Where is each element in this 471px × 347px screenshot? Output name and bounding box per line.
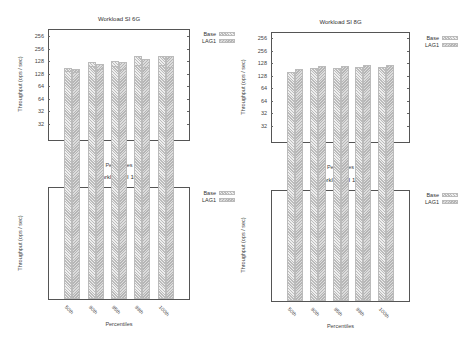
bar-lag1 bbox=[386, 65, 394, 301]
y-tick-label: 128 bbox=[247, 73, 267, 79]
y-tick-mark bbox=[48, 36, 50, 37]
y-tick-mark bbox=[48, 49, 50, 50]
legend-swatch-base bbox=[442, 193, 458, 197]
y-tick-mark bbox=[271, 63, 273, 64]
y-tick-mark-right bbox=[187, 74, 189, 75]
legend-entry: Base bbox=[408, 191, 458, 198]
legend-entry: LAG1 bbox=[408, 41, 458, 48]
y-tick-mark-right bbox=[407, 76, 409, 77]
y-tick-mark-right bbox=[187, 99, 189, 100]
y-tick-mark bbox=[271, 51, 273, 52]
legend-label: Base bbox=[203, 31, 216, 37]
y-tick-mark-right bbox=[407, 88, 409, 89]
bar-base bbox=[310, 68, 318, 301]
bar-base bbox=[111, 66, 119, 299]
x-axis-label: Percentiles bbox=[271, 323, 410, 329]
legend-swatch-base bbox=[219, 191, 235, 195]
bar-lag1 bbox=[363, 65, 371, 301]
chart-panel: Workload SI 8G2561286432Throughput (ops … bbox=[235, 0, 470, 173]
y-axis-label: Throughput (ops / sec) bbox=[17, 203, 23, 283]
bar-lag1 bbox=[96, 69, 104, 299]
bar-base bbox=[378, 67, 386, 301]
y-tick-label: 32 bbox=[24, 108, 44, 114]
chart-panel: Workload SI 12G2561286432Throughput (ops… bbox=[235, 173, 470, 346]
bar-lag1 bbox=[119, 69, 127, 299]
y-tick-mark bbox=[271, 101, 273, 102]
legend-label: Base bbox=[203, 190, 216, 196]
legend-swatch-base bbox=[442, 36, 458, 40]
x-tick-label: 95th bbox=[111, 304, 122, 315]
y-tick-label: 32 bbox=[247, 110, 267, 116]
y-tick-label: 256 bbox=[247, 48, 267, 54]
y-tick-label: 32 bbox=[24, 121, 44, 127]
chart-title: Workload SI 8G bbox=[271, 19, 410, 25]
y-tick-mark-right bbox=[407, 113, 409, 114]
y-tick-mark-right bbox=[407, 126, 409, 127]
chart-title: Workload SI 6G bbox=[48, 16, 190, 22]
y-tick-mark bbox=[271, 126, 273, 127]
x-tick-label: 90th bbox=[87, 304, 98, 315]
legend: BaseLAG1 bbox=[408, 191, 458, 205]
y-tick-mark bbox=[271, 88, 273, 89]
bar-base bbox=[287, 72, 295, 301]
y-tick-label: 256 bbox=[247, 35, 267, 41]
y-tick-label: 256 bbox=[24, 46, 44, 52]
bar-lag1 bbox=[166, 67, 174, 299]
y-tick-mark bbox=[271, 76, 273, 77]
legend-swatch-lag1 bbox=[219, 198, 235, 202]
y-tick-label: 128 bbox=[24, 71, 44, 77]
legend: BaseLAG1 bbox=[185, 30, 235, 44]
legend-entry: LAG1 bbox=[185, 37, 235, 44]
legend-entry: Base bbox=[185, 30, 235, 37]
legend-entry: LAG1 bbox=[408, 198, 458, 205]
y-tick-mark-right bbox=[187, 49, 189, 50]
legend: BaseLAG1 bbox=[185, 189, 235, 203]
bar-base bbox=[64, 71, 72, 299]
legend-swatch-lag1 bbox=[219, 39, 235, 43]
y-tick-mark bbox=[48, 61, 50, 62]
x-axis-label: Percentiles bbox=[48, 321, 190, 327]
x-tick-label: 50th bbox=[287, 306, 298, 317]
bar-base bbox=[333, 68, 341, 301]
y-axis-label: Throughput (ops / sec) bbox=[17, 44, 23, 124]
bar-base bbox=[158, 65, 166, 299]
bar-lag1 bbox=[295, 69, 303, 301]
bar-lag1 bbox=[318, 66, 326, 301]
y-tick-label: 256 bbox=[24, 33, 44, 39]
y-tick-label: 64 bbox=[247, 85, 267, 91]
legend-label: LAG1 bbox=[202, 38, 216, 44]
x-tick-label: 90th bbox=[309, 306, 320, 317]
legend-swatch-lag1 bbox=[442, 200, 458, 204]
y-tick-mark-right bbox=[187, 111, 189, 112]
y-tick-mark-right bbox=[407, 51, 409, 52]
bar-base bbox=[88, 66, 96, 299]
legend-label: Base bbox=[426, 192, 439, 198]
legend-label: LAG1 bbox=[202, 197, 216, 203]
y-tick-label: 64 bbox=[247, 98, 267, 104]
legend-swatch-lag1 bbox=[442, 43, 458, 47]
bar-lag1 bbox=[341, 66, 349, 301]
x-tick-label: 100th bbox=[378, 306, 391, 319]
x-tick-label: 50th bbox=[64, 304, 75, 315]
bar-base bbox=[134, 65, 142, 299]
x-tick-label: 99th bbox=[134, 304, 145, 315]
y-tick-mark bbox=[271, 113, 273, 114]
legend-entry: Base bbox=[408, 34, 458, 41]
bar-lag1 bbox=[142, 67, 150, 299]
x-tick-label: 99th bbox=[355, 306, 366, 317]
y-axis-label: Throughput (ops / sec) bbox=[240, 47, 246, 127]
y-tick-mark bbox=[48, 74, 50, 75]
y-tick-mark-right bbox=[187, 61, 189, 62]
y-tick-label: 64 bbox=[24, 83, 44, 89]
y-tick-mark-right bbox=[187, 36, 189, 37]
y-tick-mark bbox=[48, 124, 50, 125]
legend: BaseLAG1 bbox=[408, 34, 458, 48]
y-tick-mark bbox=[48, 99, 50, 100]
y-tick-mark bbox=[48, 111, 50, 112]
bar-base bbox=[355, 67, 363, 301]
y-axis-label: Throughput (ops / sec) bbox=[240, 205, 246, 285]
legend-entry: LAG1 bbox=[185, 196, 235, 203]
chart-panel: Workload SI 10G2561286432Throughput (ops… bbox=[0, 173, 235, 346]
y-tick-mark bbox=[271, 38, 273, 39]
y-tick-mark-right bbox=[407, 63, 409, 64]
